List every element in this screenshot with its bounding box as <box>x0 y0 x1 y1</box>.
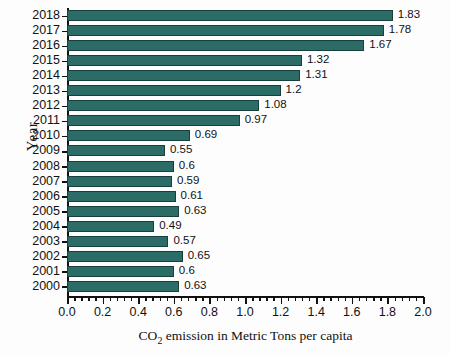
x-tick-major <box>387 297 389 304</box>
x-tick-minor <box>266 297 267 301</box>
x-tick-minor <box>402 297 403 301</box>
y-tick-label: 2005 <box>20 204 60 218</box>
bar-value-label: 0.63 <box>184 204 206 216</box>
bar <box>67 40 364 51</box>
bar-value-label: 0.97 <box>245 113 267 125</box>
bar-value-label: 0.6 <box>179 159 195 171</box>
x-axis-title-prefix: CO <box>139 328 158 343</box>
x-tick-minor <box>160 297 161 301</box>
bar <box>67 100 259 111</box>
bar <box>67 85 281 96</box>
x-tick-major <box>174 297 176 304</box>
x-tick-major <box>281 297 283 304</box>
x-tick-major <box>423 297 425 304</box>
bar <box>67 25 384 36</box>
bar-value-label: 0.6 <box>179 264 195 276</box>
bar-value-label: 0.55 <box>170 143 192 155</box>
bar <box>67 145 165 156</box>
y-tick-label: 2001 <box>20 264 60 278</box>
x-tick-minor <box>309 297 310 301</box>
x-tick-minor <box>188 297 189 301</box>
bar-value-label: 1.31 <box>305 68 327 80</box>
y-tick-label: 2002 <box>20 249 60 263</box>
x-tick-minor <box>74 297 75 301</box>
x-tick-minor <box>259 297 260 301</box>
x-tick-minor <box>167 297 168 301</box>
x-tick-minor <box>181 297 182 301</box>
x-tick-minor <box>152 297 153 301</box>
x-tick-minor <box>338 297 339 301</box>
x-tick-minor <box>195 297 196 301</box>
bar-value-label: 0.69 <box>195 128 217 140</box>
bar <box>67 176 172 187</box>
y-tick-label: 2009 <box>20 143 60 157</box>
bar <box>67 266 174 277</box>
x-tick-label: 0.8 <box>189 305 229 319</box>
x-tick-label: 0.6 <box>154 305 194 319</box>
x-axis-title: CO2 emission in Metric Tons per capita <box>67 328 424 346</box>
y-tick-label: 2011 <box>20 113 60 127</box>
x-tick-major <box>67 297 69 304</box>
x-tick-minor <box>323 297 324 301</box>
y-tick-label: 2003 <box>20 234 60 248</box>
x-tick-minor <box>88 297 89 301</box>
x-tick-major <box>138 297 140 304</box>
x-tick-label: 1.2 <box>261 305 301 319</box>
x-tick-minor <box>409 297 410 301</box>
y-tick-label: 2012 <box>20 98 60 112</box>
x-tick-minor <box>288 297 289 301</box>
x-tick-minor <box>373 297 374 301</box>
x-tick-minor <box>110 297 111 301</box>
bar <box>67 130 190 141</box>
x-tick-minor <box>95 297 96 301</box>
x-tick-label: 0.4 <box>118 305 158 319</box>
x-tick-minor <box>231 297 232 301</box>
x-tick-label: 0.2 <box>83 305 123 319</box>
x-tick-minor <box>117 297 118 301</box>
bar <box>67 161 174 172</box>
bar <box>67 70 300 81</box>
x-tick-major <box>209 297 211 304</box>
co2-emission-bar-chart: Year 20182017201620152014201320122011201… <box>0 0 451 355</box>
x-tick-minor <box>330 297 331 301</box>
x-tick-minor <box>124 297 125 301</box>
y-tick-label: 2016 <box>20 38 60 52</box>
bar-value-label: 1.2 <box>286 83 302 95</box>
y-tick-label: 2006 <box>20 189 60 203</box>
x-tick-minor <box>224 297 225 301</box>
x-tick-minor <box>145 297 146 301</box>
bar-value-label: 1.67 <box>369 38 391 50</box>
bar <box>67 55 302 66</box>
bar-value-label: 0.57 <box>173 234 195 246</box>
x-tick-label: 1.0 <box>225 305 265 319</box>
x-tick-minor <box>302 297 303 301</box>
x-tick-minor <box>345 297 346 301</box>
x-tick-major <box>316 297 318 304</box>
x-tick-major <box>352 297 354 304</box>
x-tick-major <box>103 297 105 304</box>
x-tick-minor <box>395 297 396 301</box>
y-tick-label: 2004 <box>20 219 60 233</box>
bar <box>67 115 240 126</box>
x-tick-minor <box>295 297 296 301</box>
bar-value-label: 0.61 <box>181 189 203 201</box>
x-tick-minor <box>252 297 253 301</box>
y-tick-label: 2013 <box>20 83 60 97</box>
bar <box>67 251 183 262</box>
y-tick-label: 2000 <box>20 279 60 293</box>
y-tick-label: 2017 <box>20 23 60 37</box>
bar-value-label: 0.49 <box>159 219 181 231</box>
bar-value-label: 1.08 <box>264 98 286 110</box>
y-tick-label: 2010 <box>20 128 60 142</box>
bar-value-label: 0.63 <box>184 279 206 291</box>
y-tick-label: 2007 <box>20 174 60 188</box>
bar-value-label: 0.65 <box>188 249 210 261</box>
y-tick-label: 2018 <box>20 8 60 22</box>
x-tick-minor <box>131 297 132 301</box>
x-tick-minor <box>273 297 274 301</box>
x-tick-minor <box>380 297 381 301</box>
bar-value-label: 0.59 <box>177 174 199 186</box>
x-tick-minor <box>359 297 360 301</box>
x-tick-label: 1.4 <box>296 305 336 319</box>
x-tick-minor <box>366 297 367 301</box>
